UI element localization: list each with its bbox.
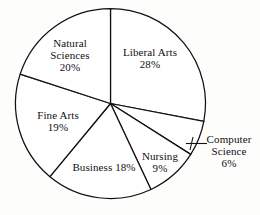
slice-value-business: 18% [115,161,135,173]
slice-value-computer-science: 6% [200,158,258,170]
slice-label-business-line1: Business [72,161,112,173]
pie-chart-canvas [0,0,260,215]
pie-chart: Natural Sciences 20% Liberal Arts 28% Fi… [0,0,260,215]
slice-label-fine-arts: Fine Arts 19% [26,110,90,134]
slice-label-business: Business 18% [62,162,146,174]
slice-label-liberal-arts: Liberal Arts 28% [115,47,185,71]
slice-value-nursing: 9% [136,163,184,175]
slice-value-fine-arts: 19% [26,122,90,134]
slice-label-natural-sciences: Natural Sciences 20% [36,38,104,74]
slice-label-computer-science: Computer Science 6% [200,134,258,170]
slice-value-liberal-arts: 28% [115,59,185,71]
slice-label-natural-sciences-line2: Sciences [36,50,104,62]
slice-label-nursing: Nursing 9% [136,151,184,175]
slice-value-natural-sciences: 20% [36,62,104,74]
slice-label-computer-science-line2: Science [200,146,258,158]
